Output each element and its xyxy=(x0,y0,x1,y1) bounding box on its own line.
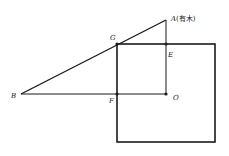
label-G: G xyxy=(110,34,116,42)
geometry-diagram: A (有木) G E B F O xyxy=(0,0,229,156)
label-E: E xyxy=(167,51,173,59)
label-O: O xyxy=(173,94,179,102)
label-A-note: (有木) xyxy=(176,14,196,23)
point-G xyxy=(115,42,118,45)
point-O xyxy=(164,92,167,95)
point-E xyxy=(164,42,167,45)
point-F xyxy=(115,92,118,95)
label-B: B xyxy=(10,92,16,100)
label-F: F xyxy=(108,97,115,105)
segment-BA xyxy=(21,20,166,94)
